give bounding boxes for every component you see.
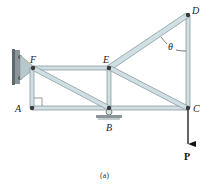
joint-label-E: E [102, 54, 109, 65]
truss-diagram: θ P F E D A B C (a) [0, 0, 213, 188]
joint-label-B: B [106, 122, 112, 133]
pin-F [31, 66, 35, 70]
pin-D [186, 13, 190, 17]
pin-A [30, 106, 34, 110]
figure-caption: (a) [100, 171, 109, 180]
member-FA [30, 68, 34, 108]
member-FB [32, 66, 110, 110]
angle-label: θ [168, 41, 173, 52]
member-EC [109, 66, 188, 110]
theta-indicator [161, 37, 186, 51]
member-FE [33, 66, 109, 70]
member-ED [107, 13, 189, 70]
truss-members [30, 13, 190, 110]
joint-label-C: C [193, 103, 200, 114]
joint-label-A: A [14, 103, 22, 114]
load-label: P [184, 151, 190, 162]
pin-B [107, 106, 111, 110]
right-angle-marker [34, 98, 42, 106]
pin-E [107, 66, 111, 70]
member-DC [186, 15, 190, 108]
joint-label-D: D [191, 5, 200, 16]
member-EB [107, 68, 111, 108]
joint-label-F: F [29, 54, 37, 65]
pin-C [186, 106, 190, 110]
roller-support [96, 109, 122, 120]
